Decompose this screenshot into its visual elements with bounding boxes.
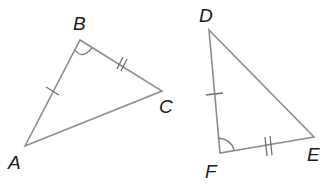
triangle-def-outline (209, 30, 314, 153)
triangle-abc: B C A (7, 13, 173, 173)
diagram-canvas: B C A D E F (0, 0, 333, 188)
angle-b-arc (75, 48, 92, 55)
vertex-label-b: B (73, 13, 86, 34)
side-fe-tick-mark-1 (265, 137, 267, 156)
side-fe-tick-mark-2 (270, 136, 272, 155)
vertex-label-a: A (7, 152, 21, 173)
triangle-def: D E F (199, 5, 320, 182)
vertex-label-c: C (159, 96, 173, 117)
vertex-label-d: D (199, 5, 213, 26)
vertex-label-f: F (205, 161, 218, 182)
vertex-label-e: E (307, 144, 320, 165)
angle-f-arc (218, 138, 234, 150)
triangle-abc-outline (25, 40, 162, 146)
